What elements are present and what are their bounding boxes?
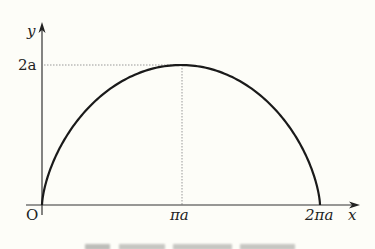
cycloid-curve [42,65,320,205]
y-axis-label: y [26,22,36,40]
y-max-label: 2a [18,56,37,74]
figure-caption-clipped [0,241,375,249]
x-mid-label: πa [169,206,189,224]
cycloid-diagram: y 2a O πa 2πa x [0,0,375,249]
x-axis-label: x [348,206,357,224]
x-end-label: 2πa [304,206,333,224]
origin-label: O [26,206,38,224]
